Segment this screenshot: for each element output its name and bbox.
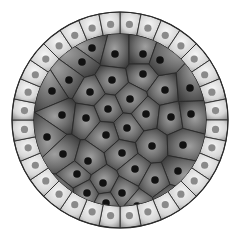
inner-cell-nucleus [108,76,116,84]
outer-cell-nucleus [162,201,169,208]
outer-cell-nucleus [25,89,32,96]
cell-cluster-diagram [0,0,241,251]
inner-cell-nucleus [139,70,147,78]
inner-cell-nucleus [131,165,139,173]
inner-cell-nucleus [84,157,92,165]
outer-cell-nucleus [191,177,198,184]
inner-cell-nucleus [148,142,156,150]
inner-cell-nucleus [126,95,134,103]
inner-cell-nucleus [78,58,86,66]
inner-cell-nucleus [174,167,182,175]
inner-cell-nucleus [59,150,67,158]
outer-cell-nucleus [126,21,133,28]
inner-cell-nucleus [139,50,147,58]
inner-cell-nucleus [43,133,51,141]
outer-cell-nucleus [201,71,208,78]
inner-cell-nucleus [48,87,56,95]
inner-cell-nucleus [187,110,195,118]
outer-cell-nucleus [42,177,49,184]
outer-cell-nucleus [71,201,78,208]
outer-cell-nucleus [55,42,62,49]
outer-cell-nucleus [21,107,28,114]
outer-cell-nucleus [32,71,39,78]
outer-cell-nucleus [208,144,215,151]
inner-cell-nucleus [161,86,169,94]
inner-cell-nucleus [118,189,126,197]
inner-cell-nucleus [167,113,175,121]
inner-cell-nucleus [186,84,194,92]
inner-cell-nucleus [118,149,126,157]
inner-cell-nucleus [151,176,159,184]
inner-cell-nucleus [104,105,112,113]
outer-cell-nucleus [55,191,62,198]
outer-cell-nucleus [144,208,151,215]
inner-cell-nucleus [142,110,150,118]
inner-cell-nucleus [156,56,164,64]
inner-cell-nucleus [111,50,119,58]
inner-cell-nucleus [58,111,66,119]
outer-cell-nucleus [208,89,215,96]
inner-cell-nucleus [99,179,107,187]
outer-cell-nucleus [32,162,39,169]
outer-cell-nucleus [42,55,49,62]
outer-cell-nucleus [201,162,208,169]
inner-cell-nucleus [102,131,110,139]
inner-cell-nucleus [123,124,131,132]
outer-cell-nucleus [191,55,198,62]
outer-cell-nucleus [144,25,151,32]
outer-cell-nucleus [25,144,32,151]
outer-cell-nucleus [162,32,169,39]
outer-cell-nucleus [89,25,96,32]
inner-cell-nucleus [179,141,187,149]
outer-cell-nucleus [177,191,184,198]
inner-cell-nucleus [83,189,91,197]
outer-cell-nucleus [177,42,184,49]
cell-cluster-svg [0,0,241,251]
outer-cell-nucleus [89,208,96,215]
outer-cell-nucleus [212,126,219,133]
outer-cell-nucleus [212,107,219,114]
outer-cell-nucleus [107,21,114,28]
outer-cell-nucleus [21,126,28,133]
inner-cell-nucleus [86,88,94,96]
outer-cell-nucleus [107,212,114,219]
inner-cell-nucleus [73,170,81,178]
outer-cell-nucleus [71,32,78,39]
inner-cell-nucleus [65,76,73,84]
outer-cell-nucleus [126,212,133,219]
inner-cell-nucleus [88,44,96,52]
inner-cell-nucleus [82,114,90,122]
